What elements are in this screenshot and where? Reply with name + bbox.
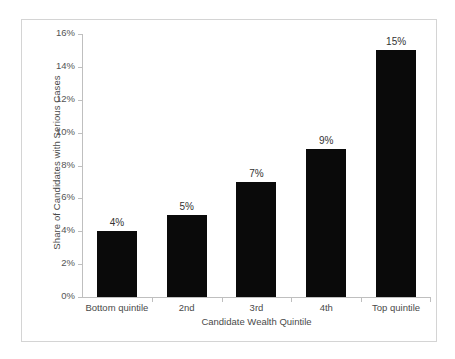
y-tick-label: 8%: [35, 159, 75, 170]
bar-group-top-quintile: 15% Top quintile: [361, 34, 431, 297]
x-category-label: 3rd: [250, 302, 264, 313]
bar-group-bottom-quintile: 4% Bottom quintile: [82, 34, 152, 297]
y-tick-label: 6%: [35, 191, 75, 202]
bar[interactable]: [167, 215, 207, 297]
chart-frame: Share of Candidates with Serious Cases 0…: [21, 19, 437, 342]
y-tick-label: 12%: [35, 93, 75, 104]
x-category-label: Bottom quintile: [85, 302, 148, 313]
y-tick-label: 4%: [35, 224, 75, 235]
bar-group-2nd: 5% 2nd: [152, 34, 222, 297]
chart-figure: Share of Candidates with Serious Cases 0…: [0, 0, 455, 359]
bar-group-4th: 9% 4th: [291, 34, 361, 297]
bar-group-3rd: 7% 3rd: [222, 34, 292, 297]
bar[interactable]: [236, 182, 276, 297]
x-category-label: 2nd: [179, 302, 195, 313]
bar[interactable]: [306, 149, 346, 297]
x-tick-mark: [430, 297, 431, 302]
bar[interactable]: [97, 231, 137, 297]
bar-value-label: 15%: [386, 36, 406, 47]
y-tick-label: 16%: [35, 27, 75, 38]
x-category-label: 4th: [320, 302, 333, 313]
bar-value-label: 5%: [179, 201, 193, 212]
x-tick-mark: [291, 297, 292, 302]
bar-value-label: 9%: [319, 135, 333, 146]
bar-value-label: 7%: [249, 168, 263, 179]
y-tick-label: 10%: [35, 126, 75, 137]
y-tick-mark: [78, 297, 82, 298]
bar-value-label: 4%: [110, 217, 124, 228]
x-tick-mark: [152, 297, 153, 302]
x-tick-mark: [361, 297, 362, 302]
y-tick-label: 0%: [35, 290, 75, 301]
y-tick-label: 2%: [35, 257, 75, 268]
y-tick-label: 14%: [35, 60, 75, 71]
bar[interactable]: [376, 50, 416, 297]
plot-area: 0% 2% 4% 6% 8% 10%: [82, 34, 431, 297]
x-tick-mark: [222, 297, 223, 302]
x-axis-title: Candidate Wealth Quintile: [82, 316, 431, 327]
x-axis-line: [82, 297, 431, 298]
x-category-label: Top quintile: [372, 302, 420, 313]
